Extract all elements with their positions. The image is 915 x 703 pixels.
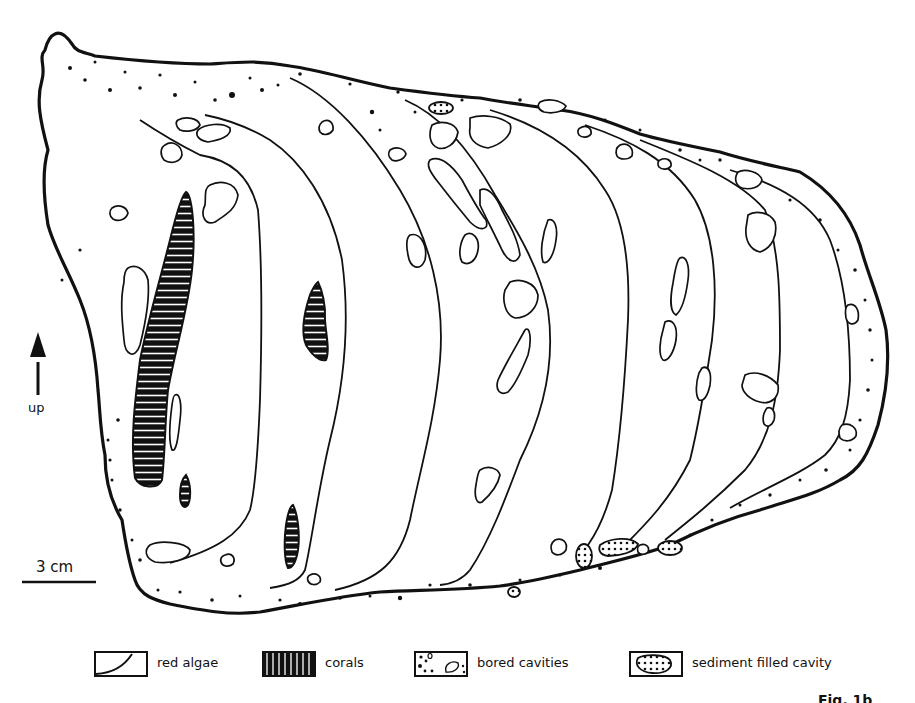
- legend-label-corals: corals: [325, 655, 364, 670]
- scale-label: 3 cm: [36, 558, 73, 576]
- legend-symbol-sediment-filled-cavity: [630, 652, 682, 676]
- arrow-up-icon: [30, 332, 46, 395]
- sediment-filled-cavities: [429, 102, 682, 597]
- legend-label-sediment-filled-cavity: sediment filled cavity: [692, 655, 832, 670]
- legend-symbol-red-algae: [95, 652, 147, 676]
- legend-label-red-algae: red algae: [157, 655, 218, 670]
- figure-number-label: Fig. 1b: [818, 692, 872, 703]
- coral-inclusions: [133, 192, 328, 568]
- bored-cavity-dots: [61, 61, 874, 607]
- bored-cavities: [110, 100, 859, 585]
- rhodolith-cross-section-diagram: [0, 0, 915, 703]
- legend-symbol-bored-cavities: [415, 652, 467, 676]
- up-label: up: [28, 400, 45, 415]
- legend-label-bored-cavities: bored cavities: [477, 655, 569, 670]
- legend-symbol-corals: [263, 652, 315, 676]
